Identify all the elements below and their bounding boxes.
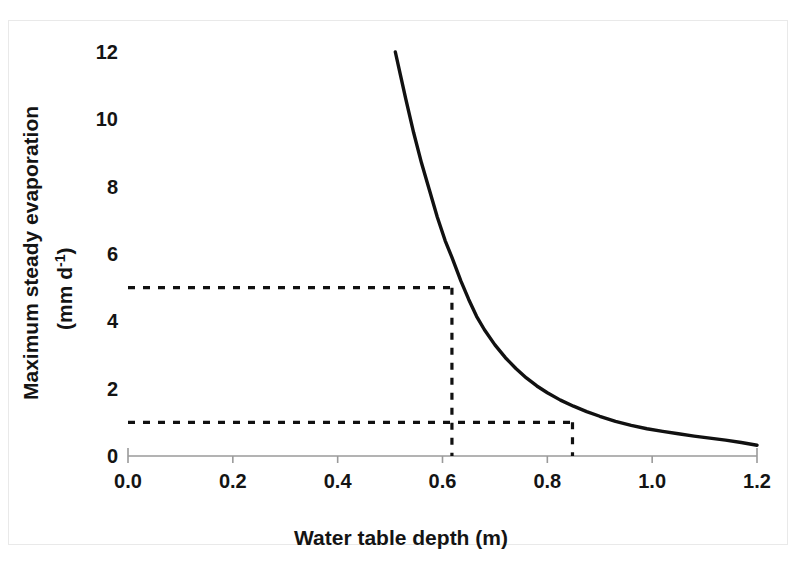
x-axis-title: Water table depth (m)	[294, 526, 508, 549]
y-tick-label-2: 2	[107, 378, 118, 400]
y-tick-label-8: 8	[107, 176, 118, 198]
x-tick-label-0-8: 0.8	[533, 470, 561, 492]
y-tick-label-4: 4	[107, 310, 119, 332]
y-axis-title-line2-text: (mm d	[53, 267, 76, 330]
figure-container: Maximum steady evaporation (mm d-1) 0246…	[0, 0, 802, 576]
y-axis-title: Maximum steady evaporation (mm d-1)	[19, 106, 76, 400]
y-axis-title-line1: Maximum steady evaporation	[19, 106, 42, 400]
y-axis-title-line2: (mm d-1)	[52, 248, 76, 330]
x-tick-label-0-2: 0.2	[219, 470, 247, 492]
evaporation-vs-water-table-depth-chart: Maximum steady evaporation (mm d-1) 0246…	[0, 0, 802, 576]
x-tick-label-0-4: 0.4	[324, 470, 353, 492]
data-series-curve	[395, 52, 757, 445]
x-tick-label-0-6: 0.6	[429, 470, 457, 492]
x-tick-label-1-0: 1.0	[638, 470, 666, 492]
guide-lines	[128, 288, 572, 456]
y-tick-label-6: 6	[107, 243, 118, 265]
y-axis-title-superscript: -1	[52, 254, 68, 267]
y-tick-label-10: 10	[96, 108, 118, 130]
y-tick-labels: 024681012	[96, 41, 119, 467]
x-tick-label-0-0: 0.0	[114, 470, 142, 492]
x-tick-labels: 0.00.20.40.60.81.01.2	[114, 470, 771, 492]
y-tick-label-12: 12	[96, 41, 118, 63]
x-tick-label-1-2: 1.2	[743, 470, 771, 492]
y-tick-label-0: 0	[107, 445, 118, 467]
y-axis-title-line2-close: )	[53, 248, 76, 255]
plot-area	[128, 52, 757, 463]
